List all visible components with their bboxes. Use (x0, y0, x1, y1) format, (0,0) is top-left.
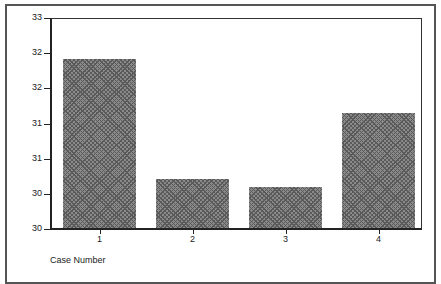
y-tick (44, 229, 50, 230)
bar-4 (342, 113, 415, 228)
y-tick-label: 30 (20, 223, 42, 233)
y-tick-label: 32 (20, 47, 42, 57)
plot-area (50, 18, 422, 230)
x-tick-label: 2 (183, 234, 203, 244)
y-tick-label: 31 (20, 118, 42, 128)
y-tick-label: 31 (20, 153, 42, 163)
y-tick-label: 30 (20, 188, 42, 198)
x-tick-label: 3 (276, 234, 296, 244)
y-tick (44, 88, 50, 89)
y-tick-label: 32 (20, 82, 42, 92)
x-tick-label: 1 (90, 234, 110, 244)
x-axis-title: Case Number (50, 255, 106, 265)
y-tick (44, 53, 50, 54)
bar-3 (249, 187, 322, 228)
y-tick-label: 33 (20, 12, 42, 22)
y-tick (44, 18, 50, 19)
y-tick (44, 194, 50, 195)
y-tick (44, 159, 50, 160)
bar-1 (63, 59, 136, 228)
bar-2 (156, 179, 229, 228)
x-tick-label: 4 (369, 234, 389, 244)
y-tick (44, 124, 50, 125)
